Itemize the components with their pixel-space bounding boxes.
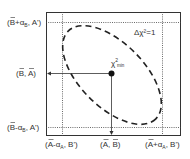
svg-text:(A+αA, B'): (A+αA, B') — [145, 140, 180, 150]
left-label-middle: (B, A) — [16, 69, 36, 79]
contour-label: Δχ²=1 — [134, 28, 156, 37]
bottom-label-middle: (A, B) — [100, 140, 121, 150]
left-label-top: (B+αB, A') — [7, 18, 42, 28]
bottom-label-right: (A+αA, B') — [145, 140, 180, 150]
svg-text:(B-αB, A'): (B-αB, A') — [7, 123, 40, 133]
chi-square-diagram: χ2min Δχ²=1 (B+αB, A') (B, A) (B-αB, A')… — [0, 0, 190, 159]
svg-text:(A-αA, B'): (A-αA, B') — [45, 140, 78, 150]
bottom-label-left: (A-αA, B') — [45, 140, 78, 150]
chi2-min-label: χ2min — [111, 57, 125, 68]
arrow-down-icon — [110, 131, 114, 135]
minimum-point — [109, 71, 115, 77]
svg-text:(B+αB, A'): (B+αB, A') — [7, 18, 42, 28]
left-label-bottom: (B-αB, A') — [7, 123, 40, 133]
svg-text:(A, B): (A, B) — [100, 140, 121, 149]
svg-text:(B, A): (B, A) — [16, 69, 36, 78]
arrow-left-icon — [47, 72, 51, 76]
